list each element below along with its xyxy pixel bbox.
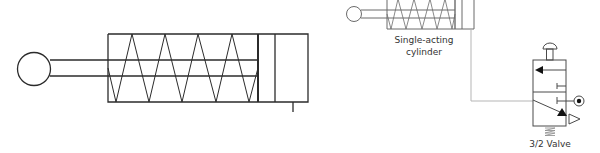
valve-3-2 [533,43,584,136]
small-cylinder [347,0,475,29]
pneumatic-diagram [0,0,600,153]
exhaust-icon [569,114,580,124]
return-spring [108,34,258,102]
upper-arrow-head [535,66,543,74]
small-cylinder-barrel [387,0,474,29]
cylinder-label-line2: cylinder [384,46,464,58]
cylinder-label-line1: Single-acting [384,34,464,46]
rod-end-eye [18,53,51,86]
cylinder-barrel [108,34,308,102]
valve-spring-icon [545,128,555,136]
push-button-icon [543,43,557,49]
push-button-stem [547,49,554,60]
pneumatic-line [471,29,533,101]
cylinder-label: Single-acting cylinder [384,34,464,58]
large-cylinder [18,34,309,112]
valve-label: 3/2 Valve [520,138,580,150]
pressure-source-dot [577,99,581,103]
small-rod-end-eye [347,7,362,22]
small-return-spring [387,0,455,29]
lower-diagonal-flow [533,100,560,112]
